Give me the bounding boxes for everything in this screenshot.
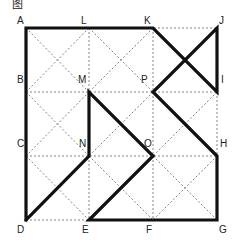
point-label-i: I [221,74,224,85]
point-label-f: F [146,224,152,235]
point-label-c: C [17,138,24,149]
point-label-e: E [82,224,89,235]
point-label-m: M [78,74,86,85]
point-label-h: H [220,138,227,149]
point-label-p: P [141,74,148,85]
point-label-n: N [79,138,86,149]
title-glyph: 图 [12,0,23,10]
point-label-j: J [219,15,224,26]
point-label-d: D [17,224,24,235]
point-label-l: L [81,15,87,26]
point-label-k: K [144,15,151,26]
point-label-g: G [219,224,227,235]
grid-diagram: 图 ALKJBMPICNOHDEFG [0,0,234,244]
point-label-o: O [144,138,152,149]
point-label-a: A [17,15,24,26]
point-label-b: B [17,74,24,85]
